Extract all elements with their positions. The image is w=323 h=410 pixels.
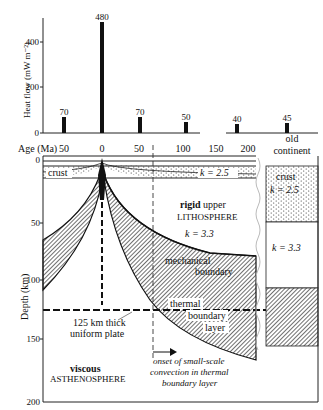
rigid-label: rigid upper bbox=[180, 199, 227, 210]
depth-tick: 0 bbox=[36, 155, 41, 165]
arrow-icon bbox=[170, 348, 177, 356]
old-continent-label-1: old bbox=[286, 133, 299, 144]
bar-old-continent bbox=[285, 123, 289, 133]
bar-age-150 bbox=[235, 124, 239, 133]
bar-label: 50 bbox=[182, 112, 192, 122]
age-axis: Age (Ma) 50 0 50 100 150 200 old contine… bbox=[18, 133, 311, 156]
age-tick: 50 bbox=[134, 143, 144, 154]
ytick-200: 200 bbox=[26, 82, 40, 92]
crust-k-label: k = 2.5 bbox=[200, 167, 229, 178]
continent-thermal-layer bbox=[266, 288, 318, 346]
onset-label-2: convection in thermal bbox=[150, 367, 229, 377]
age-axis-label: Age (Ma) bbox=[18, 143, 57, 155]
plate-label-2: uniform plate bbox=[70, 328, 125, 339]
old-continent-label-2: continent bbox=[273, 145, 310, 156]
litho-k-label: k = 3.3 bbox=[185, 228, 214, 239]
ytick-0: 0 bbox=[35, 128, 40, 138]
bar-age-0 bbox=[100, 22, 104, 133]
onset-label-3: boundary layer bbox=[162, 378, 218, 388]
bar-label: 480 bbox=[95, 12, 109, 22]
depth-tick: 100 bbox=[27, 275, 41, 285]
asthenosphere-label: ASTHENOSPHERE bbox=[50, 374, 126, 384]
bar-age-50 bbox=[138, 117, 142, 133]
layer-label: layer bbox=[205, 322, 226, 333]
bar-age-50-west bbox=[62, 117, 66, 133]
depth-tick: 200 bbox=[27, 397, 41, 407]
continent-crust-k: k = 2.5 bbox=[270, 184, 299, 195]
cross-section: Depth (km) 0 50 100 150 200 crust k = 2.… bbox=[19, 145, 318, 407]
onset-label-1: onset of small-scale bbox=[153, 356, 225, 366]
mechanical-label: mechanical bbox=[165, 255, 211, 266]
thermal-boundary-label: boundary bbox=[188, 310, 226, 321]
crust-label: crust bbox=[48, 167, 68, 178]
depth-tick: 50 bbox=[31, 218, 41, 228]
bar-label: 45 bbox=[283, 113, 293, 123]
thermal-label: thermal bbox=[170, 298, 201, 309]
age-tick: 0 bbox=[100, 143, 105, 154]
heat-flow-ylabel: Heat flow (mW m⁻²) bbox=[22, 42, 32, 118]
left-boundary-wedge bbox=[43, 175, 102, 290]
age-tick: 50 bbox=[59, 143, 69, 154]
bar-label: 70 bbox=[60, 107, 70, 117]
age-tick: 100 bbox=[176, 143, 191, 154]
continent-mantle-k: k = 3.3 bbox=[272, 242, 301, 253]
ytick-400: 400 bbox=[26, 37, 40, 47]
age-tick: 200 bbox=[241, 143, 256, 154]
mechanical-boundary-label: boundary bbox=[195, 266, 233, 277]
continent-mantle bbox=[266, 222, 318, 288]
plate-label-1: 125 km thick bbox=[73, 317, 126, 328]
heat-flow-chart: Heat flow (mW m⁻²) 0 200 400 70 480 70 5… bbox=[22, 12, 318, 138]
figure: Heat flow (mW m⁻²) 0 200 400 70 480 70 5… bbox=[0, 0, 323, 410]
lithosphere-label: LITHOSPHERE bbox=[177, 212, 238, 222]
age-tick: 150 bbox=[209, 143, 224, 154]
bar-label: 70 bbox=[136, 107, 146, 117]
bar-age-100 bbox=[184, 122, 188, 133]
bar-label: 40 bbox=[233, 114, 243, 124]
continent-crust-label: crust bbox=[276, 171, 296, 182]
depth-tick: 150 bbox=[27, 334, 41, 344]
viscous-label: viscous bbox=[70, 363, 101, 374]
